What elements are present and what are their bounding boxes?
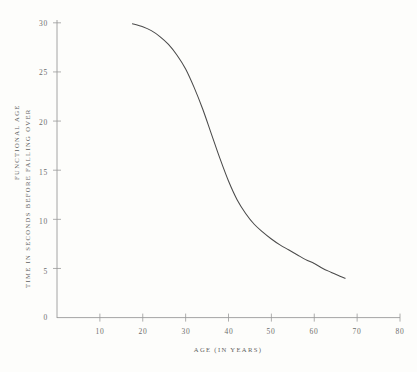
y-tick-label-25: 25 <box>28 68 48 77</box>
x-tick-label-20: 20 <box>131 327 155 336</box>
origin-label: 0 <box>28 313 48 322</box>
x-axis-title: AGE (IN YEARS) <box>148 346 308 353</box>
data-series-line <box>132 24 345 279</box>
chart-container: 30 25 20 15 10 5 0 10 20 30 40 50 60 70 … <box>0 0 417 372</box>
y-tick-label-10: 10 <box>28 217 48 226</box>
y-axis-title-outer: FUNCTIONAL AGE <box>13 104 20 180</box>
y-tick-label-20: 20 <box>28 118 48 127</box>
x-tick-label-60: 60 <box>302 327 326 336</box>
y-tick-label-30: 30 <box>28 19 48 28</box>
x-tick-label-40: 40 <box>217 327 241 336</box>
x-tick-label-50: 50 <box>259 327 283 336</box>
x-tick-label-30: 30 <box>174 327 198 336</box>
chart-plot-area <box>0 0 417 372</box>
x-tick-label-80: 80 <box>388 327 412 336</box>
x-tick-label-10: 10 <box>88 327 112 336</box>
y-axis-title-inner: TIME IN SECONDS BEFORE FALLING OVER <box>24 108 31 288</box>
y-tick-label-15: 15 <box>28 168 48 177</box>
x-tick-label-70: 70 <box>345 327 369 336</box>
y-tick-label-5: 5 <box>28 267 48 276</box>
